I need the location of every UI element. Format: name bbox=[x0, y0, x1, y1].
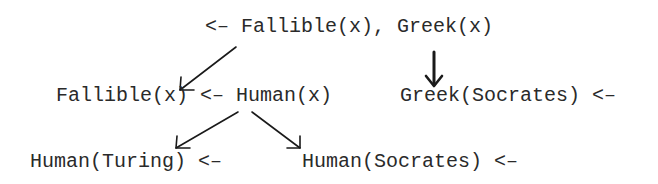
arrow-human-to-turing-icon bbox=[176, 112, 238, 148]
node-greek-fact: Greek(Socrates) <– bbox=[400, 86, 616, 106]
node-human-turing: Human(Turing) <– bbox=[30, 152, 222, 172]
node-human-socrates: Human(Socrates) <– bbox=[302, 152, 518, 172]
arrow-root-to-greek-icon bbox=[426, 52, 442, 86]
node-root-goal: <– Fallible(x), Greek(x) bbox=[205, 17, 493, 37]
arrow-human-to-socrates-icon bbox=[252, 112, 300, 148]
node-fallible-rule: Fallible(x) <– Human(x) bbox=[56, 86, 332, 106]
